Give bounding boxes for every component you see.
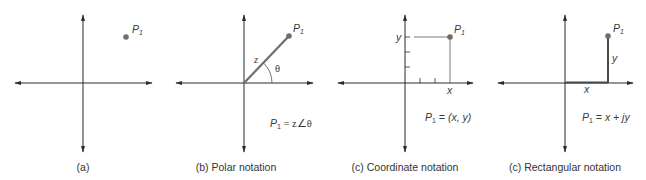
panel-c-coordinate: P1 y x P1 = (x, y) (c) Coordinate notati…: [338, 15, 473, 173]
notation-diagram: P1 (a) P1 z θ P1 = z∠θ (b) Polar notatio…: [0, 0, 646, 180]
x-component-label: x: [583, 83, 590, 95]
caption-d: (c) Rectangular notation: [509, 161, 621, 173]
point-label: P1: [293, 22, 304, 35]
point-p1: [286, 33, 292, 39]
coordinate-formula: P1 = (x, y): [425, 111, 471, 124]
panel-d-rectangular: P1 y x P1 = x + jy (c) Rectangular notat…: [498, 15, 633, 173]
point-p1: [605, 33, 611, 39]
angle-arc: [263, 63, 272, 83]
angle-label: θ: [275, 63, 280, 74]
x-value-label: x: [446, 84, 453, 96]
magnitude-label: z: [253, 54, 258, 65]
magnitude-vector: [244, 36, 289, 83]
point-label: P1: [613, 22, 624, 35]
caption-c: (c) Coordinate notation: [352, 161, 459, 173]
point-p1: [447, 34, 453, 40]
point-label: P1: [454, 23, 465, 36]
point-p1: [123, 34, 129, 40]
caption-b: (b) Polar notation: [196, 161, 277, 173]
y-value-label: y: [395, 31, 402, 43]
panel-a: P1 (a): [15, 15, 152, 173]
caption-a: (a): [77, 161, 90, 173]
panel-b-polar: P1 z θ P1 = z∠θ (b) Polar notation: [176, 15, 313, 173]
rectangular-formula: P1 = x + jy: [582, 111, 630, 124]
point-label: P1: [132, 23, 143, 36]
y-component-label: y: [611, 52, 618, 64]
polar-formula: P1 = z∠θ: [270, 117, 312, 130]
